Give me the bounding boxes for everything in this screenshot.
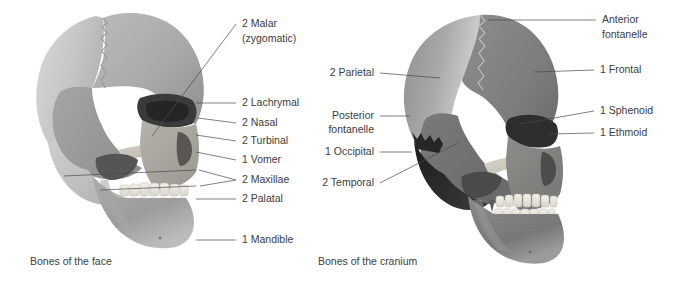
skull-illustration-cranium xyxy=(404,15,564,264)
label-parietal: 2 Parietal xyxy=(330,66,374,78)
label-malar-line1: 2 Malar xyxy=(242,17,278,29)
teeth-upper xyxy=(120,183,188,196)
label-turbinal: 2 Turbinal xyxy=(242,134,288,146)
caption-bones-of-the-cranium: Bones of the cranium xyxy=(318,255,417,267)
skull-anatomy-figure: 2 Malar (zygomatic) 2 Lachrymal 2 Nasal … xyxy=(0,0,676,286)
labels-face: 2 Malar (zygomatic) 2 Lachrymal 2 Nasal … xyxy=(242,17,299,245)
label-palatal: 2 Palatal xyxy=(242,192,283,204)
cranium-teeth-upper xyxy=(496,194,557,207)
label-anterior-fontanelle-line1: Anterior xyxy=(602,13,639,25)
label-occipital: 1 Occipital xyxy=(325,145,374,157)
leader-vomer xyxy=(196,152,236,160)
label-mandible: 1 Mandible xyxy=(242,233,294,245)
label-frontal: 1 Frontal xyxy=(600,63,641,75)
label-maxillae: 2 Maxillae xyxy=(242,173,289,185)
caption-bones-of-the-face: Bones of the face xyxy=(30,255,112,267)
temporal-fossa xyxy=(96,154,138,180)
orbit-inner-shadow xyxy=(146,101,189,122)
label-malar-line2: (zygomatic) xyxy=(242,32,296,44)
leader-maxillae-a xyxy=(199,170,236,180)
label-ethmoid: 1 Ethmoid xyxy=(600,126,647,138)
leader-nasal xyxy=(198,118,236,123)
leader-maxillae-b xyxy=(200,180,236,186)
label-anterior-fontanelle-line2: fontanelle xyxy=(602,28,648,40)
leader-turbinal xyxy=(196,135,236,141)
label-nasal: 2 Nasal xyxy=(242,116,278,128)
label-posterior-fontanelle-line2: fontanelle xyxy=(328,123,374,135)
mental-foramen xyxy=(159,237,162,240)
panel-bones-of-the-cranium: Anterior fontanelle 1 Frontal 1 Sphenoid… xyxy=(318,13,653,267)
cranium-mental-foramen xyxy=(529,251,532,254)
label-posterior-fontanelle-line1: Posterior xyxy=(332,109,375,121)
skull-illustration-face xyxy=(36,13,204,248)
label-temporal: 2 Temporal xyxy=(322,176,374,188)
label-sphenoid: 1 Sphenoid xyxy=(600,104,653,116)
panel-bones-of-the-face: 2 Malar (zygomatic) 2 Lachrymal 2 Nasal … xyxy=(30,13,299,267)
label-lachrymal: 2 Lachrymal xyxy=(242,96,299,108)
label-vomer: 1 Vomer xyxy=(242,153,282,165)
